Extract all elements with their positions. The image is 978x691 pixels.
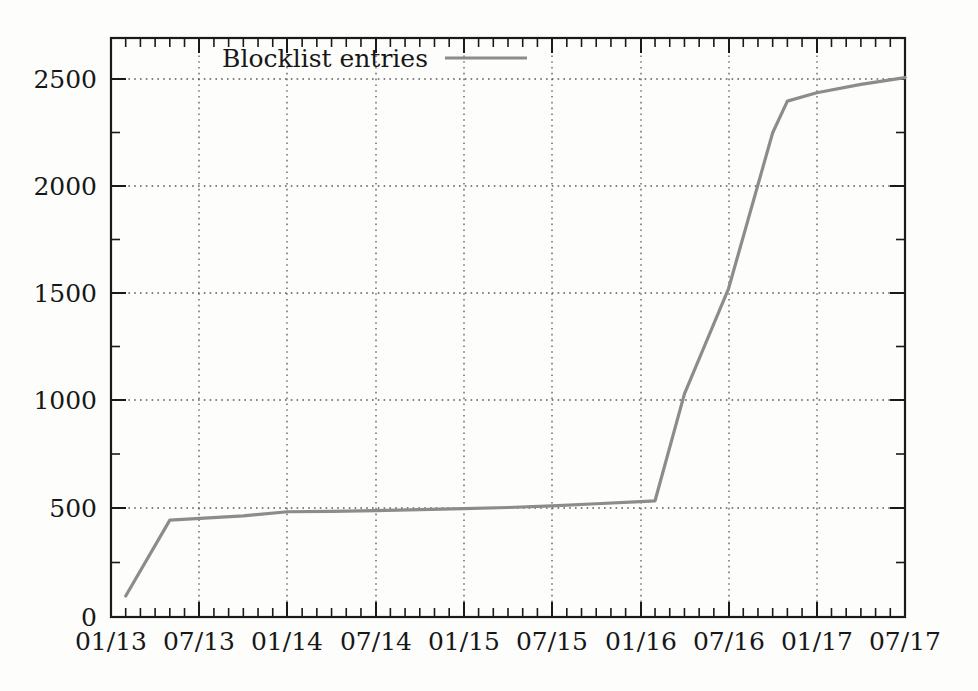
- x-tick-label: 01/14: [251, 627, 323, 656]
- x-tick-label: 07/16: [693, 627, 765, 656]
- x-tick-label: 01/16: [605, 627, 677, 656]
- y-tick-label: 500: [49, 494, 97, 523]
- y-tick-label: 1000: [33, 386, 97, 415]
- y-tick-label: 1500: [33, 279, 97, 308]
- chart-container: 2500 2000 1500 1000 500 0 01/13 07/13 01…: [0, 0, 978, 691]
- line-chart: 2500 2000 1500 1000 500 0 01/13 07/13 01…: [0, 0, 978, 691]
- chart-background: [0, 0, 978, 691]
- x-tick-label: 01/17: [781, 627, 853, 656]
- x-tick-label: 01/13: [75, 627, 147, 656]
- x-tick-label: 01/15: [428, 627, 500, 656]
- x-tick-label: 07/17: [869, 627, 941, 656]
- x-tick-label: 07/13: [163, 627, 235, 656]
- x-tick-label: 07/15: [516, 627, 588, 656]
- y-tick-label: 2000: [33, 172, 97, 201]
- x-tick-label: 07/14: [340, 627, 412, 656]
- legend-label-blocklist-entries: Blocklist entries: [222, 44, 428, 73]
- y-tick-label: 2500: [33, 65, 97, 94]
